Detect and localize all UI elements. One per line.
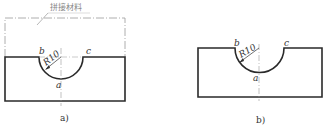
point-b-b: b [234,38,240,48]
point-b-a: b [39,46,45,56]
figure-b: R10 b c a b) [198,38,322,125]
part-a-outline [5,57,125,101]
point-c-a: c [86,46,91,56]
part-b-outline [198,48,322,97]
point-a-b: a [253,73,258,83]
point-c-b: c [284,38,289,48]
caption-a: a) [60,113,69,123]
caption-b: b) [256,115,265,125]
point-a-a: a [56,80,61,90]
material-leader-line [37,13,48,25]
splice-material-outline [5,18,125,57]
figure-a: 拼接材料 R10 b c a a) [5,2,125,123]
material-label: 拼接材料 [50,2,82,12]
diagram-canvas: 拼接材料 R10 b c a a) R10 b c a b) [0,0,326,131]
